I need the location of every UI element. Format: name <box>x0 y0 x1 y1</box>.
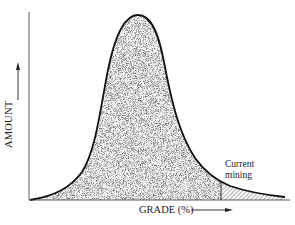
x-axis-label: GRADE (%) <box>139 204 194 215</box>
grade-distribution-diagram <box>0 0 295 225</box>
y-axis-label: AMOUNT <box>3 101 14 148</box>
x-arrow-icon <box>191 208 233 212</box>
annotation-line-1: Current <box>225 159 254 170</box>
current-mining-annotation: Current mining <box>225 159 254 181</box>
y-arrow-icon <box>16 62 20 100</box>
annotation-line-2: mining <box>225 170 254 181</box>
